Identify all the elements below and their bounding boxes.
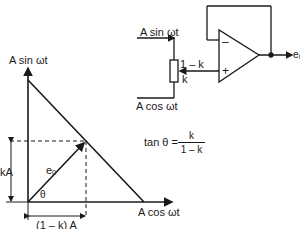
- input-cos-label: A cos ωt: [136, 101, 178, 112]
- fraction-denominator: 1 – k: [178, 144, 205, 155]
- fraction-bar: [178, 142, 205, 143]
- ka-label: kA: [0, 167, 13, 178]
- eo-label: eₒ: [46, 165, 56, 176]
- fraction-numerator: k: [178, 130, 205, 141]
- output-label: eᵢ: [293, 50, 300, 60]
- noninverting-input-label: +: [222, 65, 229, 77]
- input-sin-label: A sin ωt: [140, 27, 179, 38]
- tan-theta-fraction: k 1 – k: [178, 130, 205, 155]
- y-axis-label: A sin ωt: [9, 55, 48, 66]
- pot-upper-label: 1 – k: [180, 59, 204, 70]
- x-axis-label: A cos ωt: [138, 207, 180, 218]
- circuit-diagram: [137, 6, 292, 98]
- potentiometer: [170, 60, 178, 82]
- inverting-input-label: –: [222, 36, 229, 48]
- pot-lower-label: k: [182, 74, 188, 85]
- theta-label: θ: [40, 190, 46, 200]
- tan-theta-lhs: tan θ =: [144, 137, 178, 148]
- 1-k-a-label: (1 – k) A: [36, 220, 77, 229]
